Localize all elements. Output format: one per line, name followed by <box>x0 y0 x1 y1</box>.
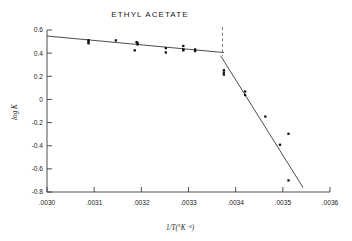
x-tick-label: .0032 <box>133 199 150 206</box>
y-tick-label: 0.2 <box>34 73 43 80</box>
data-points <box>87 39 289 182</box>
x-tick-label: .0036 <box>322 199 339 206</box>
data-point <box>136 43 138 45</box>
data-point <box>287 179 289 181</box>
chart-figure: ETHYL ACETATE 0.60.40.20-0.2-0.4-0.6-0.8… <box>0 0 352 241</box>
data-point <box>244 94 246 96</box>
data-point <box>165 51 167 53</box>
data-point <box>223 73 225 75</box>
data-point <box>223 69 225 71</box>
x-tick-label: .0031 <box>86 199 103 206</box>
data-point <box>134 49 136 51</box>
chart-title: ETHYL ACETATE <box>111 10 188 19</box>
high-temperature-branch-fit <box>221 56 304 188</box>
x-axis-ticks: .0030.0031.0032.0033.0034.0035.0036 <box>39 187 339 206</box>
y-tick-label: 0.6 <box>34 26 43 33</box>
data-point <box>165 47 167 49</box>
data-point <box>223 71 225 73</box>
data-point <box>244 90 246 92</box>
x-tick-label: .0035 <box>275 199 292 206</box>
data-point <box>87 42 89 44</box>
y-axis-ticks: 0.60.40.20-0.2-0.4-0.6-0.8 <box>32 26 52 195</box>
data-point <box>194 50 196 52</box>
x-tick-label: .0034 <box>227 199 244 206</box>
data-point <box>182 45 184 47</box>
x-tick-label: .0030 <box>39 199 56 206</box>
data-point <box>264 115 266 117</box>
fit-lines <box>47 36 303 188</box>
chart-canvas: ETHYL ACETATE 0.60.40.20-0.2-0.4-0.6-0.8… <box>0 0 352 241</box>
y-tick-label: -0.8 <box>32 188 44 195</box>
x-axis-label: 1/T(°K⁻¹) <box>166 224 195 232</box>
y-axis-label: log K <box>11 103 19 120</box>
y-tick-label: 0.4 <box>34 50 43 57</box>
y-tick-label: -0.4 <box>32 142 44 149</box>
data-point <box>182 49 184 51</box>
x-tick-label: .0033 <box>180 199 197 206</box>
y-tick-label: 0 <box>39 96 43 103</box>
data-point <box>279 144 281 146</box>
data-point <box>287 133 289 135</box>
y-tick-label: -0.6 <box>32 165 44 172</box>
data-point <box>115 39 117 41</box>
y-tick-label: -0.2 <box>32 119 44 126</box>
